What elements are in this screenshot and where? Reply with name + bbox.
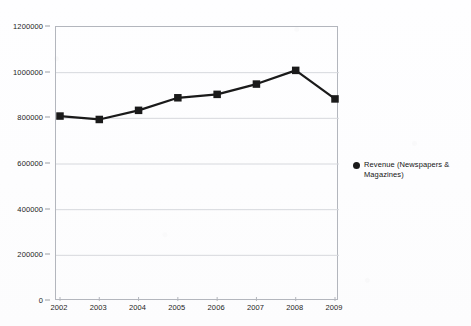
y-tick-label: 0 bbox=[39, 296, 43, 305]
data-point-marker bbox=[253, 80, 261, 88]
data-point-marker bbox=[135, 107, 143, 115]
legend-series-label: Revenue (Newspapers & Magazines) bbox=[364, 160, 465, 180]
y-tick-label: 200000 bbox=[17, 250, 43, 259]
series-line-revenue bbox=[60, 70, 335, 119]
x-tick-label: 2007 bbox=[247, 303, 264, 312]
filled-circle-icon bbox=[353, 162, 360, 169]
y-tick-mark bbox=[45, 300, 50, 301]
y-tick-label: 1000000 bbox=[13, 67, 43, 76]
data-point-marker bbox=[56, 112, 64, 120]
data-point-marker bbox=[213, 91, 221, 99]
y-tick-mark bbox=[45, 117, 50, 118]
x-tick-label: 2006 bbox=[208, 303, 225, 312]
y-tick-mark bbox=[45, 254, 50, 255]
y-tick-mark bbox=[45, 163, 50, 164]
y-tick-mark bbox=[45, 26, 50, 27]
data-point-marker bbox=[96, 116, 104, 124]
x-tick-label: 2008 bbox=[286, 303, 303, 312]
x-tick-label: 2002 bbox=[50, 303, 67, 312]
y-tick-mark bbox=[45, 71, 50, 72]
x-tick-label: 2003 bbox=[90, 303, 107, 312]
x-tick-label: 2004 bbox=[129, 303, 146, 312]
y-tick-label: 1200000 bbox=[13, 22, 43, 31]
x-axis: 20022003200420052006200720082009 bbox=[55, 303, 338, 319]
data-point-marker bbox=[292, 67, 300, 75]
x-tick-label: 2005 bbox=[168, 303, 185, 312]
chart-legend: Revenue (Newspapers & Magazines) bbox=[353, 160, 465, 180]
plot-svg bbox=[56, 27, 339, 301]
y-tick-label: 800000 bbox=[17, 113, 43, 122]
data-point-marker bbox=[331, 95, 339, 103]
y-axis: 020000040000060000080000010000001200000 bbox=[0, 26, 50, 300]
x-tick-label: 2009 bbox=[325, 303, 342, 312]
y-tick-mark bbox=[45, 208, 50, 209]
chart-title bbox=[60, 0, 360, 3]
plot-area bbox=[55, 26, 338, 300]
data-point-marker bbox=[174, 94, 182, 102]
y-tick-label: 600000 bbox=[17, 159, 43, 168]
line-chart-figure: 020000040000060000080000010000001200000 … bbox=[0, 0, 471, 326]
y-tick-label: 400000 bbox=[17, 204, 43, 213]
